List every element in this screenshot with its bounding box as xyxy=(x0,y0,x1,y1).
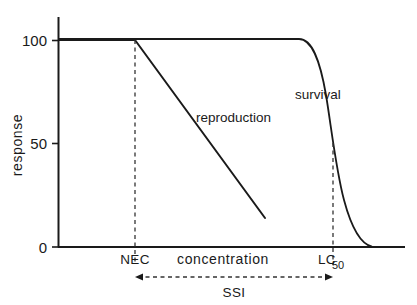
y-tick-label-0: 0 xyxy=(39,239,47,256)
nec-label: NEC xyxy=(120,252,149,267)
response-concentration-figure: 100 50 0 response reproduction survival … xyxy=(0,0,417,305)
x-axis-title: concentration xyxy=(177,251,269,267)
ssi-label: SSI xyxy=(223,285,246,300)
y-tick-label-50: 50 xyxy=(30,135,47,152)
y-axis-title: response xyxy=(9,114,25,176)
survival-label: survival xyxy=(295,87,341,102)
reproduction-label: reproduction xyxy=(196,110,271,125)
lc50-subscript: 50 xyxy=(332,259,344,271)
y-tick-label-100: 100 xyxy=(22,32,47,49)
chart-canvas: 100 50 0 response reproduction survival … xyxy=(0,0,417,305)
